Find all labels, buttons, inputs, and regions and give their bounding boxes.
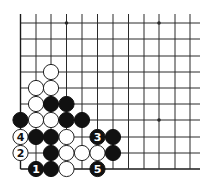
white-stone (28, 96, 43, 111)
black-stone-icon (43, 161, 58, 176)
white-stone-icon (59, 129, 74, 144)
move-number-label: 5 (94, 163, 102, 176)
white-stone-icon (43, 64, 58, 79)
black-stone-icon (74, 112, 89, 127)
white-stone (74, 145, 89, 160)
black-stone-icon (43, 96, 58, 111)
move-number-label: 1 (32, 163, 40, 176)
black-stone (59, 112, 74, 127)
white-stone-move-4: 4 (13, 129, 28, 144)
white-stone-icon (43, 80, 58, 95)
go-board: 43215 (0, 0, 212, 188)
white-stone (43, 80, 58, 95)
black-stone-icon (13, 112, 28, 127)
black-stone (43, 129, 58, 144)
white-stone (28, 80, 43, 95)
white-stone-icon (28, 96, 43, 111)
white-stone (90, 145, 105, 160)
black-stone-icon (43, 129, 58, 144)
white-stone-icon (74, 145, 89, 160)
black-stone-icon (105, 129, 120, 144)
black-stone-icon (43, 145, 58, 160)
star-point-icon (65, 21, 69, 25)
black-stone-move-5: 5 (90, 161, 105, 176)
white-stone (43, 112, 58, 127)
move-number-label: 3 (94, 131, 102, 144)
white-stone-move-2: 2 (13, 145, 28, 160)
white-stone-icon (28, 112, 43, 127)
black-stone (13, 112, 28, 127)
white-stone (59, 145, 74, 160)
black-stone-icon (105, 145, 120, 160)
black-stone-move-3: 3 (90, 129, 105, 144)
star-point-icon (157, 21, 161, 25)
black-stone (59, 96, 74, 111)
star-point-icon (157, 118, 161, 122)
black-stone (43, 96, 58, 111)
white-stone-icon (59, 161, 74, 176)
white-stone-icon (43, 112, 58, 127)
white-stone (43, 64, 58, 79)
black-stone-icon (59, 96, 74, 111)
black-stone (28, 129, 43, 144)
white-stone (28, 112, 43, 127)
black-stone (43, 161, 58, 176)
black-stone-move-1: 1 (28, 161, 43, 176)
white-stone (59, 129, 74, 144)
black-stone (74, 112, 89, 127)
white-stone-icon (90, 145, 105, 160)
black-stone (43, 145, 58, 160)
white-stone-icon (59, 145, 74, 160)
white-stone-icon (28, 80, 43, 95)
move-number-label: 2 (17, 147, 25, 160)
black-stone (105, 129, 120, 144)
white-stone (59, 161, 74, 176)
black-stone-icon (59, 112, 74, 127)
black-stone (105, 145, 120, 160)
black-stone-icon (28, 129, 43, 144)
move-number-label: 4 (17, 131, 25, 144)
